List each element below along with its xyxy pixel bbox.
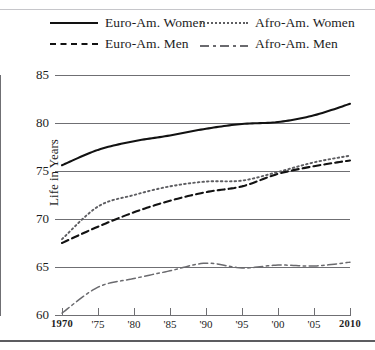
x-axis-tick xyxy=(350,308,351,316)
y-axis-tick-label: 65 xyxy=(9,260,49,273)
y-axis-tick-label: 85 xyxy=(9,68,49,81)
y-axis-tick xyxy=(55,171,62,172)
legend-line-dashed-icon xyxy=(50,39,98,49)
y-axis-tick xyxy=(55,123,62,124)
legend-item-afro-am-men: Afro-Am. Men xyxy=(200,35,338,53)
legend-item-euro-am-men: Euro-Am. Men xyxy=(50,35,189,53)
y-axis-tick xyxy=(55,315,62,316)
legend-item-afro-am-women: Afro-Am. Women xyxy=(200,14,355,32)
x-axis-tick-label: 2010 xyxy=(328,319,372,330)
legend-label: Euro-Am. Men xyxy=(105,37,189,51)
y-axis-line xyxy=(0,75,1,316)
legend-label: Euro-Am. Women xyxy=(105,16,206,30)
legend-label: Afro-Am. Men xyxy=(255,37,338,51)
chart-legend: Euro-Am. Women Afro-Am. Women Euro-Am. M… xyxy=(0,14,375,54)
legend-label: Afro-Am. Women xyxy=(255,16,355,30)
legend-line-solid-icon xyxy=(50,18,98,28)
series-line-euro-am-women xyxy=(62,104,350,165)
y-axis-tick xyxy=(55,267,62,268)
legend-row-1: Euro-Am. Women Afro-Am. Women xyxy=(0,14,375,32)
legend-row-2: Euro-Am. Men Afro-Am. Men xyxy=(0,35,375,53)
life-expectancy-line-chart: Life in Years 858075706560 1970'75'80'85… xyxy=(0,58,375,340)
plot-area xyxy=(62,75,350,315)
series-line-afro-am-men xyxy=(62,262,350,313)
y-axis-tick xyxy=(55,219,62,220)
legend-line-dashdot-icon xyxy=(200,39,248,49)
page-rule-bottom xyxy=(0,340,375,342)
page-rule-top xyxy=(0,9,375,10)
y-axis-tick-label: 80 xyxy=(9,116,49,129)
y-axis-tick xyxy=(55,75,62,76)
series-line-euro-am-men xyxy=(62,160,350,243)
legend-line-dotted-icon xyxy=(200,18,248,28)
y-axis-tick-label: 75 xyxy=(9,164,49,177)
series-lines xyxy=(62,75,350,315)
legend-item-euro-am-women: Euro-Am. Women xyxy=(50,14,206,32)
y-axis-tick-label: 70 xyxy=(9,212,49,225)
